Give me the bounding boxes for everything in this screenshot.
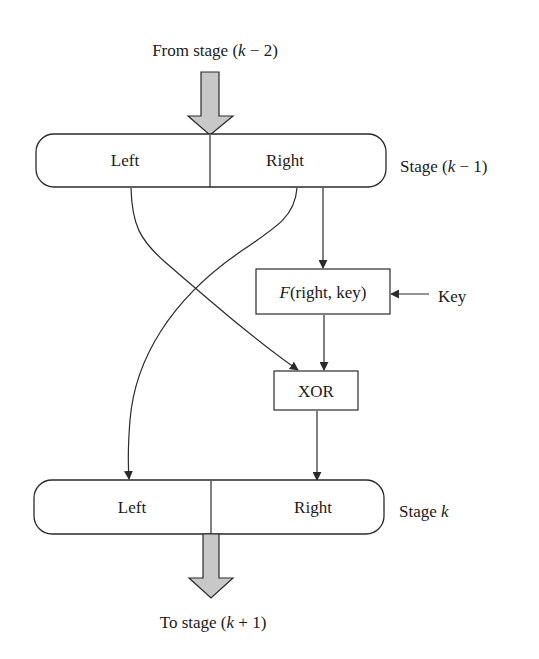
stage-next-left-label: Left [118, 499, 146, 516]
output-block-arrow [189, 534, 233, 598]
key-label: Key [438, 288, 466, 305]
xor-label: XOR [298, 383, 334, 400]
diagram-canvas [0, 0, 539, 659]
stage-prev-label: Stage (k − 1) [400, 158, 487, 175]
stage-prev-box [36, 134, 386, 187]
stage-next-label: Stage k [399, 503, 449, 520]
input-block-arrow [188, 72, 233, 135]
input-label: From stage (k − 2) [152, 42, 278, 59]
stage-prev-left-label: Left [111, 152, 139, 169]
output-label: To stage (k + 1) [160, 614, 267, 631]
stage-prev-right-label: Right [266, 152, 304, 169]
edge-right-to-next-left [128, 188, 297, 479]
function-box-label: F(right, key) [280, 284, 367, 301]
stage-next-right-label: Right [294, 499, 332, 516]
